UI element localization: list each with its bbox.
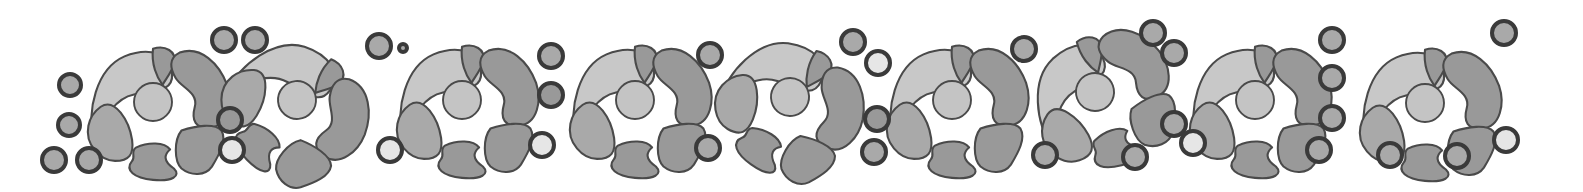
rosette-center-circle (1236, 81, 1274, 119)
petal-blob (438, 142, 485, 179)
rosette-layer (88, 15, 1502, 192)
petal-blob (570, 103, 615, 159)
decorative-border-pattern (0, 0, 1583, 192)
rosette-cluster (397, 46, 539, 179)
petal-blob (1401, 145, 1448, 182)
rosette-cluster (887, 46, 1029, 179)
ring-dot (1320, 66, 1344, 90)
petal-blob (480, 49, 538, 126)
ring-dot (58, 114, 80, 136)
ring-dot (539, 83, 563, 107)
ring-dot (862, 140, 886, 164)
ring-dot (1012, 37, 1036, 61)
ring-dot (1162, 41, 1186, 65)
rosette-center-circle (134, 83, 172, 121)
rosette-center-circle (933, 81, 971, 119)
ring-dot (1307, 138, 1331, 162)
ring-dot (698, 43, 722, 67)
ring-dot (1141, 21, 1165, 45)
ring-dot (220, 138, 244, 162)
rosette-center-circle (443, 81, 481, 119)
ring-dot (530, 133, 554, 157)
rosette-center-circle (616, 81, 654, 119)
pattern-svg (0, 0, 1583, 192)
ring-dot (243, 28, 267, 52)
ring-dot (1181, 131, 1205, 155)
petal-blob (485, 124, 533, 172)
ring-dot (866, 51, 890, 75)
ring-dot (1320, 106, 1344, 130)
rosette-cluster (88, 48, 230, 181)
ring-dot (841, 30, 865, 54)
ring-dot (212, 28, 236, 52)
ring-dot (1123, 145, 1147, 169)
ring-dot (1378, 143, 1402, 167)
petal-blob (611, 142, 658, 179)
petal-blob (176, 126, 224, 174)
rosette-center-circle (1406, 84, 1444, 122)
ring-dot (1445, 144, 1469, 168)
ring-dot (1492, 21, 1516, 45)
ring-dot (42, 148, 66, 172)
rosette-cluster (570, 46, 712, 179)
ring-dot (1033, 143, 1057, 167)
petal-blob (129, 144, 176, 181)
ring-dot (218, 108, 242, 132)
petal-blob (887, 103, 932, 159)
ring-dot (1320, 28, 1344, 52)
petal-blob (928, 142, 975, 179)
ring-dot (367, 34, 391, 58)
petal-blob (975, 124, 1023, 172)
ring-dot (865, 107, 889, 131)
ring-dot (539, 44, 563, 68)
ring-dot (399, 44, 407, 52)
ring-dot (77, 148, 101, 172)
ring-dot (1494, 128, 1518, 152)
ring-dot (696, 136, 720, 160)
ring-dot (378, 138, 402, 162)
ring-dot (1162, 112, 1186, 136)
petal-blob (1231, 142, 1278, 179)
petal-blob (1443, 52, 1501, 129)
ring-dot (59, 74, 81, 96)
